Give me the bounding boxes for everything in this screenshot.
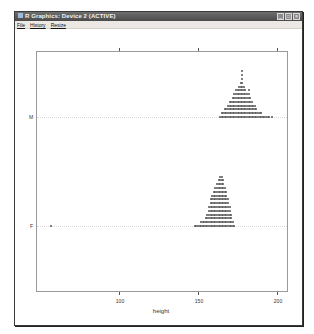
x-tick-label-100: 100: [116, 298, 124, 304]
data-point: [248, 93, 250, 95]
x-tick-label-150: 150: [195, 298, 203, 304]
data-point: [224, 187, 226, 189]
top-tick-150: [198, 48, 199, 51]
plot-layer: 100 150 200 M F height: [0, 0, 314, 334]
gridline-f: [37, 226, 287, 227]
data-point: [229, 210, 231, 212]
plot-frame: [36, 51, 288, 292]
x-axis-title: height: [153, 308, 169, 314]
y-category-label-m: M: [29, 114, 33, 120]
data-point: [254, 105, 256, 107]
data-point: [251, 101, 253, 103]
bottom-tick-100: [119, 292, 120, 295]
top-tick-200: [277, 48, 278, 51]
top-tick-100: [119, 48, 120, 51]
data-point: [232, 221, 234, 223]
y-category-label-f: F: [30, 223, 33, 229]
bottom-tick-200: [277, 292, 278, 295]
data-point: [221, 176, 223, 178]
data-point: [243, 86, 245, 88]
data-point: [229, 206, 231, 208]
bottom-tick-150: [198, 292, 199, 295]
x-tick-label-200: 200: [274, 298, 282, 304]
data-point: [230, 214, 232, 216]
